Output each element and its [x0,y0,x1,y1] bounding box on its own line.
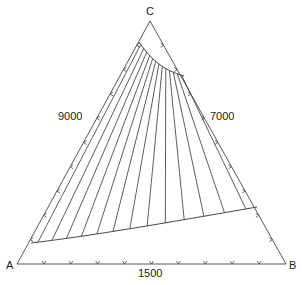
tie-line [81,56,149,237]
tie-lines [38,45,246,243]
right-edge-label: 7000 [210,111,234,122]
edge-ticks [30,43,272,264]
tie-line [52,49,144,241]
vertex-label-a: A [6,260,13,271]
bottom-edge-label: 1500 [138,268,162,279]
tie-line [169,71,184,220]
vertex-label-c: C [146,6,154,17]
vertex-label-b: B [289,260,296,271]
tie-line [165,69,166,223]
tie-line [182,75,246,209]
left-edge-label: 9000 [58,111,82,122]
tie-line [173,72,204,216]
tie-line [147,66,162,226]
ternary-diagram [0,0,302,285]
